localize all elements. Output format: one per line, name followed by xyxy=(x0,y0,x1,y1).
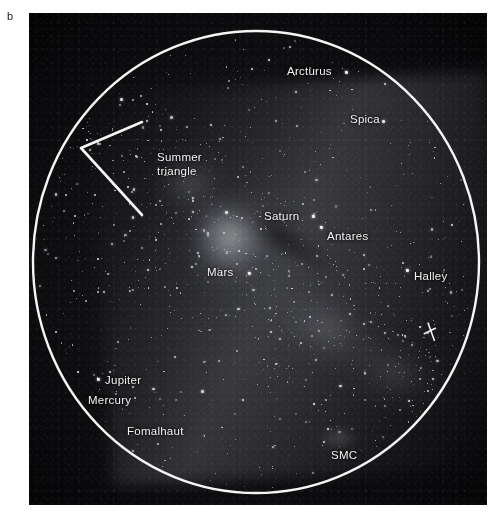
sky-label-saturn: Saturn xyxy=(264,210,299,223)
sky-label-smc: SMC xyxy=(331,449,357,462)
sky-label-arcturus: Arcturus xyxy=(287,65,332,78)
horizon-circle xyxy=(33,31,479,493)
sky-label-jupiter: Jupiter xyxy=(105,374,141,387)
sky-label-mercury: Mercury xyxy=(88,394,131,407)
panel-letter: b xyxy=(7,11,13,22)
comet-tick-icon xyxy=(422,322,437,342)
object-marker-arcturus xyxy=(345,71,347,73)
sky-label-summer-triangle: Summer triangle xyxy=(157,151,202,178)
all-sky-photograph: ArcturusSpicaSummer triangleSaturnAntare… xyxy=(29,13,487,505)
sky-overlay-graphics xyxy=(29,13,487,505)
sky-label-spica: Spica xyxy=(350,113,380,126)
sky-label-mars: Mars xyxy=(207,266,234,279)
sky-label-antares: Antares xyxy=(327,230,368,243)
object-marker-jupiter xyxy=(97,378,99,380)
object-marker-saturn xyxy=(312,215,314,217)
sky-label-fomalhaut: Fomalhaut xyxy=(127,425,184,438)
object-marker-mars xyxy=(248,272,250,274)
sky-label-halley: Halley xyxy=(414,270,447,283)
object-marker-halley xyxy=(406,269,408,271)
object-marker-antares xyxy=(320,226,322,228)
summer-triangle-outline xyxy=(81,122,142,215)
